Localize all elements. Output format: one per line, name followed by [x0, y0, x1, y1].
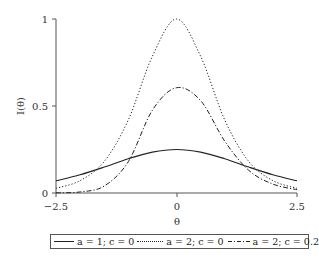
x-tick-zero: 0 [174, 201, 180, 212]
legend-item-2: a = 2; c = 0 [134, 236, 223, 247]
legend-item-3: a = 2; c = 0.25 [224, 236, 319, 247]
dashdot-line-icon [228, 241, 250, 242]
chart-plot-area: 1 0.5 0 −2.5 0 2.5 θ I(θ) [0, 0, 319, 266]
solid-line-icon [54, 241, 74, 242]
series-line-3 [56, 87, 297, 192]
dotted-line-icon [137, 241, 163, 242]
x-tick-max: 2.5 [289, 201, 305, 212]
y-tick-0: 0 [42, 188, 48, 199]
legend-item-1: a = 1; c = 0 [54, 236, 134, 247]
curves [56, 19, 297, 193]
y-axis-label: I(θ) [15, 97, 26, 115]
axes: 1 0.5 0 −2.5 0 2.5 θ I(θ) [15, 14, 305, 227]
y-tick-0.5: 0.5 [32, 101, 48, 112]
series-line-1 [56, 150, 297, 181]
y-tick-1: 1 [42, 14, 48, 25]
series-line-2 [56, 19, 297, 188]
x-axis-label: θ [174, 216, 180, 227]
x-tick-min: −2.5 [44, 201, 68, 212]
legend: a = 1; c = 0 a = 2; c = 0 a = 2; c = 0.2… [50, 234, 309, 249]
